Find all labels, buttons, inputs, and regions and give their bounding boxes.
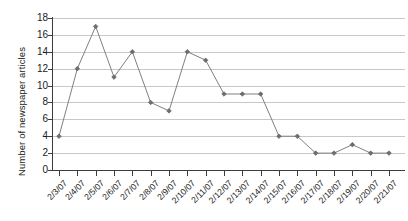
series-line: [59, 26, 389, 153]
line-chart: Number of newspaper articles 02468101214…: [0, 0, 408, 221]
data-point-marker: [148, 100, 153, 105]
data-point-marker: [240, 92, 245, 97]
data-point-marker: [368, 151, 373, 156]
data-point-marker: [203, 58, 208, 63]
data-point-marker: [93, 24, 98, 29]
data-point-marker: [185, 49, 190, 54]
data-point-marker: [75, 66, 80, 71]
data-point-marker: [57, 134, 62, 139]
data-point-marker: [350, 142, 355, 147]
data-point-marker: [277, 134, 282, 139]
data-point-marker: [222, 92, 227, 97]
data-point-marker: [332, 151, 337, 156]
data-point-marker: [167, 109, 172, 114]
data-point-marker: [387, 151, 392, 156]
data-point-marker: [258, 92, 263, 97]
data-series-newspaper-articles: [0, 0, 408, 221]
